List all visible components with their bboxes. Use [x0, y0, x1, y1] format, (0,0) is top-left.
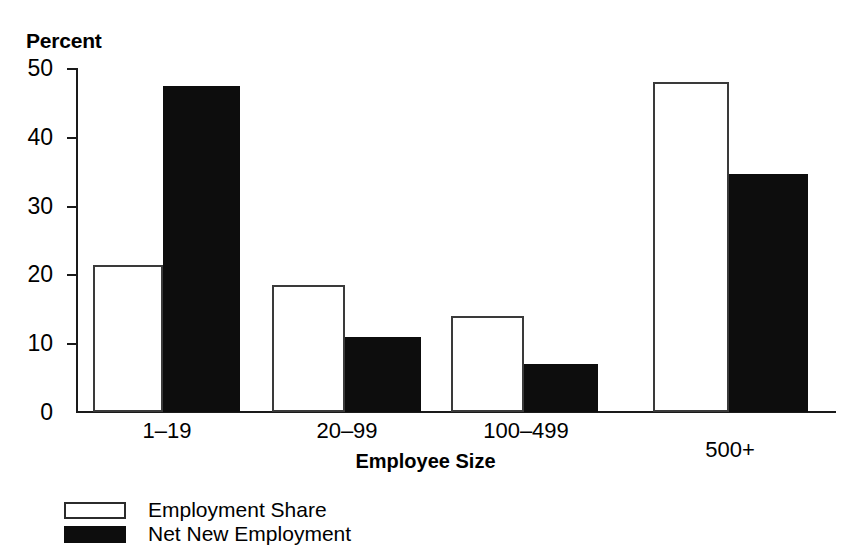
y-tick-label-30: 30 [27, 192, 53, 219]
bar-employment-share-100-499 [451, 316, 524, 412]
bar-employment-share-20-99 [272, 285, 345, 412]
x-category-label-20-99: 20–99 [316, 418, 377, 444]
y-tick-0: 0 [67, 412, 76, 414]
y-tick-label-0: 0 [40, 399, 53, 426]
bar-chart-figure: Percent 50 40 30 20 10 0 1–19 [0, 0, 851, 559]
y-axis-title: Percent [26, 29, 102, 53]
y-tick-20: 20 [67, 274, 76, 276]
plot-area: 50 40 30 20 10 0 [76, 68, 821, 412]
bar-net-new-employment-1-19 [163, 86, 240, 412]
x-axis-title: Employee Size [0, 450, 851, 473]
y-tick-50: 50 [67, 68, 76, 70]
bar-employment-share-1-19 [93, 265, 163, 412]
x-category-label-100-499: 100–499 [483, 418, 569, 444]
bar-net-new-employment-20-99 [345, 337, 421, 412]
x-category-label-1-19: 1–19 [143, 418, 192, 444]
y-tick-label-40: 40 [27, 123, 53, 150]
legend-label-net-new-employment: Net New Employment [148, 522, 351, 546]
y-tick-30: 30 [67, 206, 76, 208]
y-tick-label-10: 10 [27, 330, 53, 357]
y-tick-40: 40 [67, 137, 76, 139]
bar-net-new-employment-100-499 [524, 364, 598, 412]
y-tick-10: 10 [67, 343, 76, 345]
bar-employment-share-500plus [653, 82, 729, 412]
legend: Employment Share Net New Employment [64, 498, 351, 546]
y-tick-label-50: 50 [27, 55, 53, 82]
legend-swatch-light-icon [64, 502, 126, 519]
bar-net-new-employment-500plus [729, 174, 808, 412]
legend-item-employment-share: Employment Share [64, 498, 351, 522]
y-tick-label-20: 20 [27, 261, 53, 288]
legend-item-net-new-employment: Net New Employment [64, 522, 351, 546]
legend-label-employment-share: Employment Share [148, 498, 327, 522]
legend-swatch-dark-icon [64, 526, 126, 543]
